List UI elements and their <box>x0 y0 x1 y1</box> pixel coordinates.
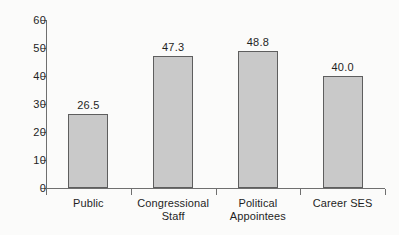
category-label: Career SES <box>298 197 388 210</box>
y-axis-tick-label: 50 <box>12 42 46 54</box>
x-axis-tick <box>385 189 386 195</box>
x-axis-tick <box>46 189 47 195</box>
y-axis-tick-label: 60 <box>12 14 46 26</box>
category-label: Public <box>43 197 133 210</box>
bar-chart: 0102030405060 26.547.348.840.0 PublicCon… <box>0 0 399 235</box>
category-label-line: Appointees <box>213 210 303 223</box>
y-axis-tick-label: 30 <box>12 98 46 110</box>
y-axis-tick-label: 40 <box>12 70 46 82</box>
y-axis-line <box>46 20 47 188</box>
category-label-line: Public <box>43 197 133 210</box>
bar-value-label: 47.3 <box>143 41 203 53</box>
bar <box>238 51 278 188</box>
category-label-line: Staff <box>128 210 218 223</box>
bar-value-label: 48.8 <box>228 36 288 48</box>
y-axis-tick-label: 20 <box>12 126 46 138</box>
y-axis-tick-label: 10 <box>12 154 46 166</box>
category-label-line: Career SES <box>298 197 388 210</box>
bar <box>323 76 363 188</box>
bar <box>153 56 193 188</box>
category-label: PoliticalAppointees <box>213 197 303 223</box>
category-label-line: Congressional <box>128 197 218 210</box>
x-axis-tick <box>216 189 217 195</box>
x-axis-tick <box>131 189 132 195</box>
x-axis-tick <box>300 189 301 195</box>
bar-value-label: 40.0 <box>313 61 373 73</box>
bar-value-label: 26.5 <box>58 99 118 111</box>
bar <box>68 114 108 188</box>
y-axis-tick-label: 0 <box>12 182 46 194</box>
category-label-line: Political <box>213 197 303 210</box>
category-label: CongressionalStaff <box>128 197 218 223</box>
